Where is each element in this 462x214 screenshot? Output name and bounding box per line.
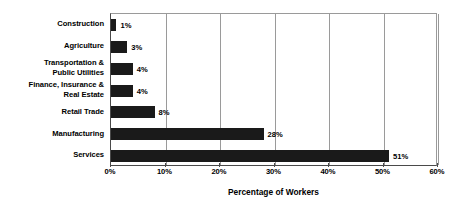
- category-label: Services: [0, 150, 104, 159]
- bar-value-label: 4%: [137, 86, 148, 95]
- x-axis-title: Percentage of Workers: [110, 187, 437, 197]
- bar-value-label: 51%: [393, 152, 408, 161]
- bar: [111, 106, 155, 118]
- x-tick-label: 60%: [429, 167, 444, 176]
- bar: [111, 41, 127, 53]
- category-label-line: Finance, Insurance &: [0, 80, 104, 89]
- category-label: Manufacturing: [0, 129, 104, 138]
- bar: [111, 19, 116, 31]
- bar-row: 8%: [111, 106, 438, 118]
- category-axis: ConstructionAgricultureTransportation &P…: [0, 13, 104, 166]
- bar-value-label: 1%: [120, 20, 131, 29]
- category-label: Finance, Insurance &Real Estate: [0, 80, 104, 98]
- x-tick-label: 0%: [105, 167, 116, 176]
- bar: [111, 128, 264, 140]
- gridline: [438, 14, 439, 165]
- bar-row: 51%: [111, 150, 438, 162]
- bar-row: 28%: [111, 128, 438, 140]
- x-axis-ticks: 0%10%20%30%40%50%60%: [0, 167, 462, 181]
- category-label: Agriculture: [0, 41, 104, 50]
- x-tick-label: 20%: [211, 167, 226, 176]
- category-label-line: Construction: [0, 19, 104, 28]
- plot-area: 1%3%4%4%8%28%51%: [110, 13, 437, 166]
- bar: [111, 150, 389, 162]
- bar-value-label: 4%: [137, 64, 148, 73]
- x-tick-label: 40%: [320, 167, 335, 176]
- x-tick-label: 10%: [157, 167, 172, 176]
- category-label-line: Transportation &: [0, 58, 104, 67]
- bar: [111, 85, 133, 97]
- bar-value-label: 8%: [159, 108, 170, 117]
- bar-chart: ConstructionAgricultureTransportation &P…: [0, 0, 462, 214]
- category-label: Transportation &Public Utilities: [0, 58, 104, 76]
- x-tick-label: 50%: [375, 167, 390, 176]
- bar: [111, 63, 133, 75]
- category-label-line: Services: [0, 150, 104, 159]
- category-label-line: Retail Trade: [0, 107, 104, 116]
- bar-row: 4%: [111, 63, 438, 75]
- bar-value-label: 3%: [131, 42, 142, 51]
- category-label-line: Real Estate: [0, 90, 104, 99]
- category-label: Construction: [0, 19, 104, 28]
- bar-value-label: 28%: [268, 130, 283, 139]
- category-label: Retail Trade: [0, 107, 104, 116]
- bar-row: 1%: [111, 19, 438, 31]
- category-label-line: Public Utilities: [0, 68, 104, 77]
- category-label-line: Manufacturing: [0, 129, 104, 138]
- category-label-line: Agriculture: [0, 41, 104, 50]
- bar-row: 3%: [111, 41, 438, 53]
- bar-row: 4%: [111, 85, 438, 97]
- x-tick-label: 30%: [266, 167, 281, 176]
